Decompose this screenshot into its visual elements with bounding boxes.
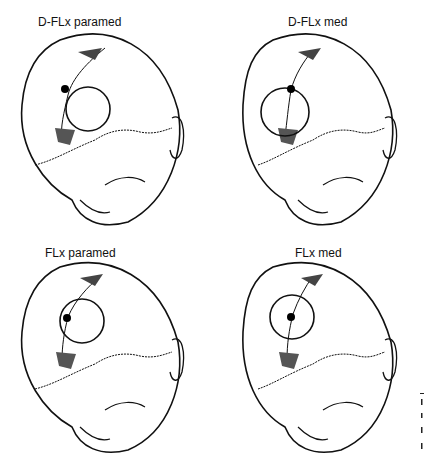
bregma-hatch — [78, 48, 102, 60]
nose — [298, 427, 328, 440]
head-illustration — [0, 0, 213, 232]
midline-suture — [61, 48, 105, 140]
cropped-text-fragment — [419, 393, 425, 463]
ear-icon — [383, 117, 397, 158]
panel-flx-paramed: FLx paramed — [0, 232, 213, 464]
eye-ridge — [105, 177, 145, 185]
bregma-hatch — [301, 274, 323, 286]
hairline — [35, 128, 172, 165]
hairline — [35, 352, 172, 389]
head-illustration — [213, 0, 426, 232]
eye-ridge — [105, 402, 145, 410]
panel-d-flx-paramed: D-FLx paramed — [0, 0, 213, 232]
entry-point-dot — [287, 313, 295, 321]
head-outline — [22, 263, 180, 452]
nose — [80, 200, 110, 213]
nose — [298, 200, 328, 213]
bregma-hatch — [298, 48, 321, 60]
eye-ridge — [323, 402, 363, 410]
entry-point-dot — [287, 85, 295, 93]
head-outline — [243, 263, 393, 452]
entry-point-dot — [61, 85, 69, 93]
head-outline — [243, 34, 393, 225]
lambda-hatch — [56, 352, 76, 369]
panel-flx-med: FLx med — [213, 232, 426, 464]
panel-d-flx-med: D-FLx med — [213, 0, 426, 232]
eye-ridge — [323, 177, 363, 185]
head-outline — [22, 34, 180, 225]
nose — [80, 427, 110, 440]
head-illustration — [213, 232, 426, 464]
entry-point-dot — [63, 314, 71, 322]
ear-icon — [170, 339, 184, 380]
ear-icon — [383, 339, 397, 380]
lambda-hatch — [55, 128, 75, 145]
burr-hole-circle — [66, 87, 110, 131]
lambda-hatch — [279, 352, 299, 369]
hairline — [258, 128, 385, 165]
ear-icon — [170, 117, 184, 158]
hairline — [258, 352, 385, 389]
head-illustration — [0, 232, 213, 464]
